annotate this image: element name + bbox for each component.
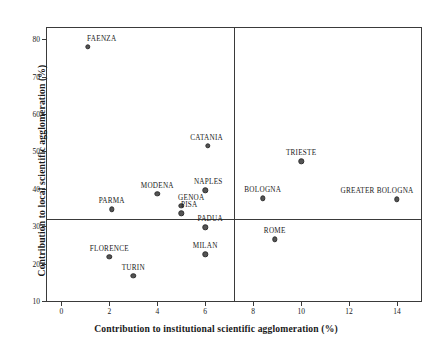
scatter-chart: 102030405060708002468101214FAENZACATANIA… (0, 0, 432, 358)
data-point[interactable] (85, 44, 90, 49)
data-point-label: TURIN (122, 264, 145, 272)
x-axis-tick (301, 301, 302, 306)
data-point[interactable] (272, 237, 277, 242)
x-axis-tick (205, 301, 206, 306)
x-axis-title: Contribution to institutional scientific… (0, 323, 432, 334)
vertical-reference-line (234, 28, 235, 301)
y-axis-title: Contribution to local scientific agglome… (36, 35, 47, 305)
data-point[interactable] (109, 207, 114, 212)
x-axis-tick-label: 12 (345, 307, 353, 316)
data-point-label: PADUA (198, 215, 223, 223)
data-point-label: MODENA (141, 182, 174, 190)
data-point[interactable] (107, 254, 112, 259)
data-point-label: TRIESTE (286, 149, 317, 157)
data-point-label: BOLOGNA (244, 186, 281, 194)
y-axis-title-container: Contribution to local scientific agglome… (14, 27, 30, 302)
data-point-label: NAPLES (194, 178, 223, 186)
data-point[interactable] (203, 252, 208, 257)
x-axis-tick (109, 301, 110, 306)
x-axis-tick-label: 14 (393, 307, 401, 316)
x-axis-tick (253, 301, 254, 306)
plot-area: 102030405060708002468101214FAENZACATANIA… (46, 27, 422, 302)
x-axis-tick-label: 2 (107, 307, 111, 316)
x-axis-tick (397, 301, 398, 306)
data-point-label: GENOA (178, 194, 204, 202)
x-axis-tick-label: 4 (155, 307, 159, 316)
data-point[interactable] (394, 197, 399, 202)
data-point[interactable] (203, 225, 208, 230)
data-point[interactable] (131, 273, 136, 278)
data-point[interactable] (260, 195, 265, 200)
data-point-label: FAENZA (87, 35, 116, 43)
data-point-label: PARMA (99, 197, 125, 205)
data-point-label: CATANIA (190, 134, 223, 142)
data-point[interactable] (205, 143, 210, 148)
data-point-label: MILAN (193, 242, 218, 250)
data-point[interactable] (298, 158, 303, 163)
x-axis-tick (61, 301, 62, 306)
data-point[interactable] (179, 211, 184, 216)
x-axis-tick-label: 0 (60, 307, 64, 316)
x-axis-tick-label: 8 (251, 307, 255, 316)
data-point-label: GREATER BOLOGNA (341, 187, 414, 195)
data-point[interactable] (155, 191, 160, 196)
x-axis-tick (349, 301, 350, 306)
x-axis-tick-label: 10 (297, 307, 305, 316)
x-axis-tick (157, 301, 158, 306)
horizontal-reference-line (47, 219, 421, 220)
data-point-label: PISA (181, 201, 198, 209)
data-point-label: ROME (264, 227, 286, 235)
data-point[interactable] (203, 188, 208, 193)
x-axis-tick-label: 6 (203, 307, 207, 316)
data-point-label: FLORENCE (90, 245, 129, 253)
